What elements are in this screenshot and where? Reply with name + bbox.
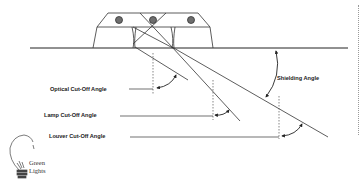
louver-cutoff-ray — [172, 47, 328, 137]
lamp-cutoff-ray — [172, 47, 240, 121]
lamps — [116, 17, 195, 24]
lamp-angle-arc — [215, 110, 229, 115]
louver-cutoff-label: Louver Cut-Off Angle — [49, 133, 105, 139]
optical-angle-arc — [157, 75, 176, 88]
logo-green: Green — [29, 160, 45, 167]
lamp-icon — [150, 17, 157, 24]
optical-cutoff-label: Optical Cut-Off Angle — [50, 86, 107, 92]
shielding-angle-arc — [266, 51, 278, 97]
lamp-icon — [188, 17, 195, 24]
louver-angle-arc — [282, 124, 302, 136]
diagram-canvas — [0, 0, 361, 188]
logo-lights: Lights — [29, 168, 46, 175]
shielding-angle-label: Shielding Angle — [277, 75, 319, 81]
lamp-cutoff-label: Lamp Cut-Off Angle — [44, 112, 97, 118]
lamp-icon — [116, 17, 123, 24]
